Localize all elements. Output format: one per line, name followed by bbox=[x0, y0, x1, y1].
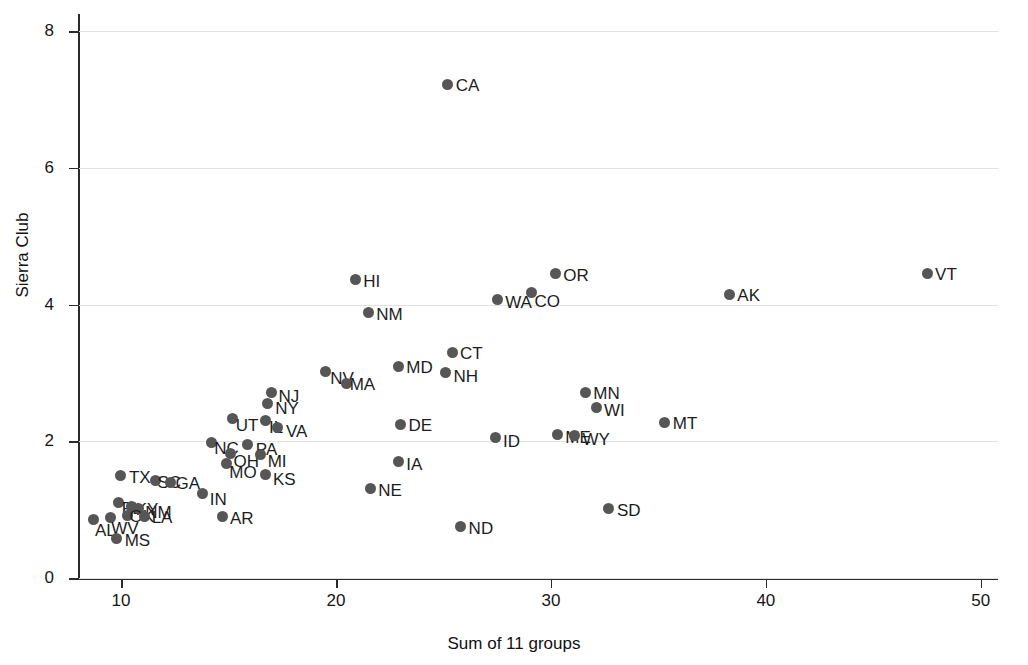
data-point bbox=[165, 477, 176, 488]
data-point bbox=[447, 347, 458, 358]
data-point bbox=[115, 470, 126, 481]
data-point-label: MA bbox=[350, 376, 376, 393]
x-tick-label: 10 bbox=[91, 592, 151, 609]
data-point-label: OR bbox=[563, 267, 589, 284]
data-point-label: MS bbox=[125, 532, 151, 549]
data-point-label: KS bbox=[273, 471, 296, 488]
data-point-label: NE bbox=[378, 482, 402, 499]
data-point bbox=[111, 533, 122, 544]
x-tick bbox=[121, 579, 123, 588]
data-point-label: WI bbox=[604, 402, 625, 419]
data-point bbox=[255, 449, 266, 460]
data-point-label: IN bbox=[210, 491, 227, 508]
data-point-label: NY bbox=[275, 400, 299, 417]
data-point-label: CO bbox=[535, 293, 561, 310]
data-point-label: VT bbox=[935, 266, 957, 283]
x-tick bbox=[766, 579, 768, 588]
data-point-label: AR bbox=[230, 510, 254, 527]
data-point-label: DE bbox=[408, 417, 432, 434]
scatter-plot-figure: 02468 1020304050 CAVTORHICOAKWANMCTMDNVN… bbox=[0, 0, 1028, 665]
data-point bbox=[262, 398, 273, 409]
data-point-label: GA bbox=[175, 475, 200, 492]
y-tick-label: 2 bbox=[20, 432, 54, 449]
data-point bbox=[217, 511, 228, 522]
data-point-label: IA bbox=[406, 456, 422, 473]
y-tick bbox=[69, 168, 78, 170]
plot-area: 02468 1020304050 CAVTORHICOAKWANMCTMDNVN… bbox=[0, 0, 1028, 665]
data-point bbox=[492, 294, 503, 305]
x-tick-label: 40 bbox=[736, 592, 796, 609]
y-axis-line bbox=[78, 14, 80, 579]
data-point bbox=[455, 521, 466, 532]
data-point bbox=[603, 503, 614, 514]
y-tick bbox=[69, 441, 78, 443]
y-tick-label: 8 bbox=[20, 22, 54, 39]
data-point bbox=[490, 432, 501, 443]
gridline bbox=[79, 31, 998, 32]
data-point-label: HI bbox=[363, 273, 380, 290]
data-point-label: MN bbox=[593, 385, 619, 402]
y-tick bbox=[69, 305, 78, 307]
data-point-label: MD bbox=[406, 359, 432, 376]
data-point-label: NM bbox=[376, 306, 402, 323]
data-point-label: ND bbox=[469, 520, 494, 537]
x-tick-label: 30 bbox=[521, 592, 581, 609]
data-point-label: MO bbox=[229, 464, 256, 481]
data-point-label: SD bbox=[617, 502, 641, 519]
y-tick-label: 0 bbox=[20, 569, 54, 586]
data-point bbox=[724, 289, 735, 300]
data-point bbox=[266, 387, 277, 398]
data-point bbox=[365, 483, 376, 494]
data-point bbox=[393, 456, 404, 467]
data-point-label: MI bbox=[268, 453, 287, 470]
data-point bbox=[363, 307, 374, 318]
data-point bbox=[580, 387, 591, 398]
data-point-label: LA bbox=[152, 509, 173, 526]
x-axis-title: Sum of 11 groups bbox=[0, 634, 1028, 654]
data-point-label: CA bbox=[456, 77, 480, 94]
data-point-label: AK bbox=[737, 287, 760, 304]
y-tick bbox=[69, 578, 78, 580]
data-point-label: UT bbox=[236, 417, 259, 434]
gridline bbox=[79, 168, 998, 169]
data-point-label: ID bbox=[503, 433, 520, 450]
data-point bbox=[659, 417, 670, 428]
data-point-label: WA bbox=[505, 294, 532, 311]
data-point-label: TX bbox=[129, 469, 151, 486]
data-point-label: CT bbox=[460, 345, 483, 362]
data-point-label: VA bbox=[286, 423, 307, 440]
data-point bbox=[242, 439, 253, 450]
data-point bbox=[393, 361, 404, 372]
data-point bbox=[350, 274, 361, 285]
data-point bbox=[320, 366, 331, 377]
x-tick bbox=[981, 579, 983, 588]
data-point-label: NH bbox=[454, 368, 479, 385]
data-point bbox=[260, 469, 271, 480]
data-point bbox=[591, 402, 602, 413]
data-point-label: MT bbox=[673, 415, 698, 432]
x-tick bbox=[336, 579, 338, 588]
data-point bbox=[197, 488, 208, 499]
data-point bbox=[440, 367, 451, 378]
data-point bbox=[442, 79, 453, 90]
x-tick bbox=[551, 579, 553, 588]
y-axis-title: Sierra Club bbox=[13, 170, 33, 340]
data-point bbox=[550, 268, 561, 279]
x-tick-label: 20 bbox=[306, 592, 366, 609]
data-point bbox=[922, 268, 933, 279]
x-tick-label: 50 bbox=[951, 592, 1011, 609]
y-tick bbox=[69, 31, 78, 33]
gridline bbox=[79, 578, 998, 579]
data-point bbox=[552, 429, 563, 440]
data-point bbox=[395, 419, 406, 430]
data-point-label: WY bbox=[583, 431, 610, 448]
